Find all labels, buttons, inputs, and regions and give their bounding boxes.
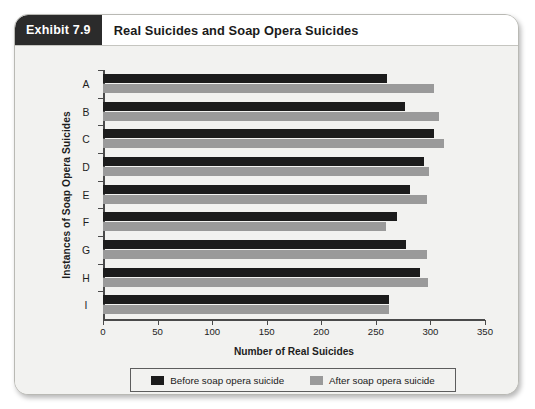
bar-e-before — [103, 185, 410, 194]
x-axis-tick — [267, 320, 268, 325]
bar-b-after — [103, 112, 439, 121]
bar-i-after — [103, 305, 389, 314]
bar-d-after — [103, 167, 429, 176]
y-axis-tick — [98, 264, 103, 265]
bar-b-before — [103, 102, 405, 111]
y-axis-tick — [98, 208, 103, 209]
x-axis-tick — [376, 320, 377, 325]
x-axis-tick — [158, 320, 159, 325]
chart-legend: Before soap opera suicide After soap ope… — [130, 368, 456, 392]
y-axis-title: Instances of Soap Opera Suicides — [61, 90, 72, 300]
x-axis-tick — [321, 320, 322, 325]
y-axis-category-label: G — [77, 244, 95, 255]
x-axis-line — [103, 319, 485, 321]
y-axis-category-label: H — [77, 272, 95, 283]
exhibit-number-tag: Exhibit 7.9 — [15, 15, 102, 45]
y-axis-category-label: I — [77, 300, 95, 311]
y-axis-tick — [98, 153, 103, 154]
legend-swatch-after — [310, 376, 323, 385]
y-axis-tick — [98, 236, 103, 237]
legend-swatch-before — [151, 376, 164, 385]
y-axis-tick — [98, 98, 103, 99]
y-axis-tick — [98, 181, 103, 182]
bar-e-after — [103, 195, 427, 204]
x-axis-tick-label: 150 — [259, 326, 275, 337]
chart-plot-area: Instances of Soap Opera Suicides 0501001… — [15, 46, 518, 394]
bar-f-after — [103, 222, 386, 231]
bar-g-before — [103, 240, 406, 249]
bar-h-before — [103, 268, 420, 277]
x-axis-tick-label: 0 — [100, 326, 105, 337]
x-axis-tick-label: 250 — [368, 326, 384, 337]
y-axis-category-label: A — [77, 78, 95, 89]
y-axis-tick — [98, 70, 103, 71]
legend-label-after: After soap opera suicide — [329, 375, 435, 386]
legend-item-before: Before soap opera suicide — [151, 375, 284, 386]
x-axis-tick — [430, 320, 431, 325]
exhibit-header: Exhibit 7.9 Real Suicides and Soap Opera… — [15, 15, 518, 46]
bar-g-after — [103, 250, 427, 259]
x-axis-tick-label: 50 — [152, 326, 163, 337]
exhibit-card: Exhibit 7.9 Real Suicides and Soap Opera… — [14, 14, 519, 395]
legend-item-after: After soap opera suicide — [310, 375, 435, 386]
exhibit-title: Real Suicides and Soap Opera Suicides — [102, 15, 359, 45]
bar-c-before — [103, 129, 434, 138]
y-axis-category-label: F — [77, 217, 95, 228]
x-axis-tick — [103, 320, 104, 325]
y-axis-category-label: D — [77, 161, 95, 172]
x-axis-tick — [212, 320, 213, 325]
y-axis-tick — [98, 125, 103, 126]
bar-a-after — [103, 84, 434, 93]
x-axis-tick-label: 350 — [477, 326, 493, 337]
x-axis-tick-label: 200 — [313, 326, 329, 337]
x-axis-title: Number of Real Suicides — [103, 346, 485, 357]
y-axis-category-label: B — [77, 106, 95, 117]
bar-h-after — [103, 278, 428, 287]
bar-a-before — [103, 74, 387, 83]
y-axis-tick — [98, 291, 103, 292]
bar-f-before — [103, 212, 397, 221]
y-axis-category-label: C — [77, 134, 95, 145]
y-axis-category-label: E — [77, 189, 95, 200]
x-axis-tick-label: 100 — [204, 326, 220, 337]
x-axis-tick-label: 300 — [422, 326, 438, 337]
bar-c-after — [103, 139, 444, 148]
bar-d-before — [103, 157, 424, 166]
legend-label-before: Before soap opera suicide — [170, 375, 284, 386]
bar-i-before — [103, 295, 389, 304]
x-axis-tick — [485, 320, 486, 325]
